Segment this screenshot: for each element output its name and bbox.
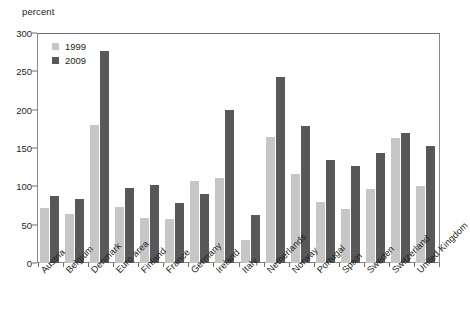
bar-group <box>213 33 238 263</box>
x-axis-labels: AustriaBelgiumDenmarkEuro areaFinlandFra… <box>38 268 459 335</box>
x-tick-mark <box>239 263 240 267</box>
y-tick-label: 300 <box>0 28 32 39</box>
bar-1999 <box>391 138 400 263</box>
bars-layer <box>38 33 439 263</box>
bar-1999 <box>190 181 199 263</box>
bar-group <box>364 33 389 263</box>
bar-2009 <box>401 133 410 263</box>
bar-1999 <box>266 137 275 264</box>
bar-2009 <box>326 160 335 263</box>
bar-2009 <box>376 153 385 263</box>
bar-group <box>314 33 339 263</box>
y-tick-label: 150 <box>0 143 32 154</box>
bar-group <box>38 33 63 263</box>
bar-2009 <box>100 51 109 263</box>
y-tick-mark <box>32 109 37 110</box>
y-tick-label: 100 <box>0 181 32 192</box>
bar-group <box>138 33 163 263</box>
y-tick-mark <box>32 33 37 34</box>
bar-group <box>113 33 138 263</box>
y-tick-mark <box>32 224 37 225</box>
x-tick-mark <box>339 263 340 267</box>
bar-2009 <box>276 77 285 263</box>
y-tick-label: 200 <box>0 104 32 115</box>
bar-group <box>339 33 364 263</box>
x-tick-mark <box>314 263 315 267</box>
y-tick-mark <box>32 71 37 72</box>
bar-group <box>264 33 289 263</box>
bar-2009 <box>426 146 435 263</box>
y-tick-mark <box>32 186 37 187</box>
y-tick-label: 250 <box>0 66 32 77</box>
bar-group <box>289 33 314 263</box>
y-axis-unit-label: percent <box>22 6 54 17</box>
y-tick-label: 50 <box>0 219 32 230</box>
bar-group <box>88 33 113 263</box>
bar-group <box>239 33 264 263</box>
x-tick-mark <box>264 263 265 267</box>
bar-group <box>389 33 414 263</box>
bar-group <box>163 33 188 263</box>
bar-group <box>63 33 88 263</box>
bar-group <box>414 33 439 263</box>
bar-1999 <box>165 219 174 263</box>
bar-group <box>188 33 213 263</box>
bar-2009 <box>225 110 234 263</box>
y-tick-label: 0 <box>0 258 32 269</box>
bar-1999 <box>65 214 74 263</box>
x-tick-mark <box>439 263 440 267</box>
y-tick-mark <box>32 263 37 264</box>
bar-2009 <box>351 166 360 263</box>
y-tick-mark <box>32 148 37 149</box>
bar-1999 <box>90 125 99 263</box>
x-tick-mark <box>289 263 290 267</box>
bar-1999 <box>40 208 49 263</box>
bar-1999 <box>366 189 375 263</box>
